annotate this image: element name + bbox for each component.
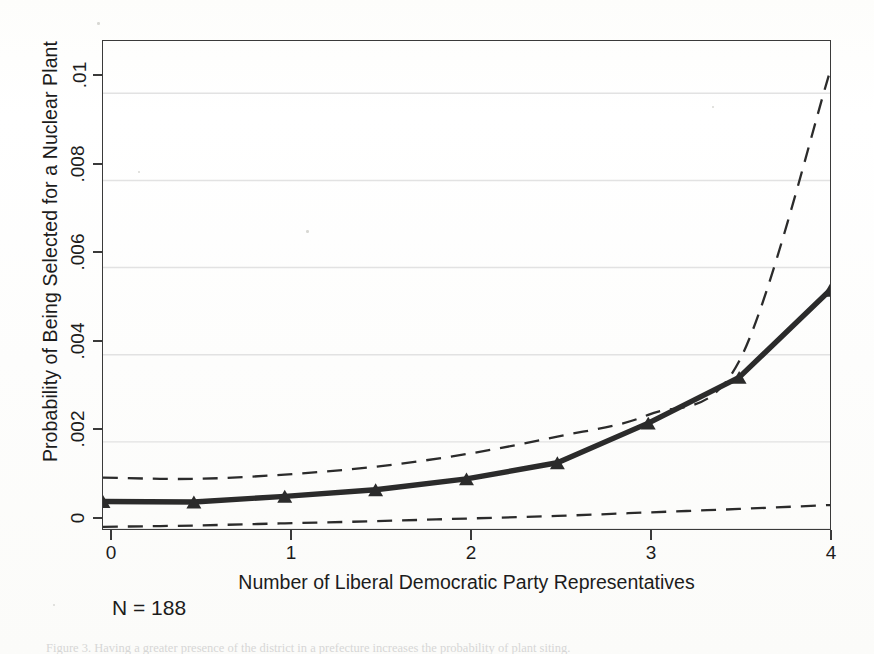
y-tick-label-01: .01 — [69, 45, 91, 105]
data-series-layer — [103, 41, 830, 529]
plot-area — [102, 40, 831, 530]
x-tick-mark-0 — [110, 530, 112, 540]
y-tick-mark-01 — [93, 74, 102, 76]
x-tick-mark-3 — [650, 530, 652, 540]
y-tick-label-002: .002 — [67, 399, 89, 459]
y-tick-mark-0 — [93, 517, 102, 519]
sample-size-annotation: N = 188 — [112, 596, 186, 620]
x-axis-title: Number of Liberal Democratic Party Repre… — [102, 571, 831, 594]
scan-speckle — [138, 171, 140, 173]
scan-speckle — [306, 230, 309, 233]
upper-confidence-line — [103, 72, 830, 479]
y-tick-mark-008 — [93, 163, 102, 165]
x-tick-label-2: 2 — [451, 542, 491, 564]
y-tick-mark-004 — [93, 340, 102, 342]
y-tick-mark-002 — [93, 428, 102, 430]
data-point-markers — [103, 284, 830, 509]
x-tick-mark-1 — [290, 530, 292, 540]
x-tick-label-1: 1 — [271, 542, 311, 564]
y-axis-title: Probability of Being Selected for a Nucl… — [39, 17, 62, 487]
scan-speckle — [53, 604, 55, 606]
scan-speckle — [712, 106, 714, 108]
figure-caption: Figure 3. Having a greater presence of t… — [46, 641, 836, 654]
lower-confidence-line — [103, 505, 830, 527]
predicted-probability-line — [103, 290, 830, 502]
scan-speckle — [97, 22, 100, 25]
x-tick-mark-2 — [470, 530, 472, 540]
y-tick-label-004: .004 — [67, 311, 89, 371]
y-tick-mark-006 — [93, 251, 102, 253]
x-tick-label-0: 0 — [91, 542, 131, 564]
y-tick-label-008: .008 — [67, 134, 89, 194]
x-tick-label-3: 3 — [631, 542, 671, 564]
y-tick-label-006: .006 — [67, 222, 89, 282]
x-tick-mark-4 — [830, 530, 832, 540]
figure-container: Probability of Being Selected for a Nucl… — [0, 0, 874, 654]
y-tick-label-0: 0 — [67, 488, 89, 548]
x-tick-label-4: 4 — [811, 542, 851, 564]
